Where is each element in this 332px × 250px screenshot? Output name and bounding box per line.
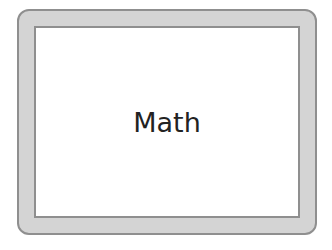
card-label: Math [133,107,201,138]
card-face[interactable]: Math [34,26,300,218]
card-frame: Math [17,9,317,235]
